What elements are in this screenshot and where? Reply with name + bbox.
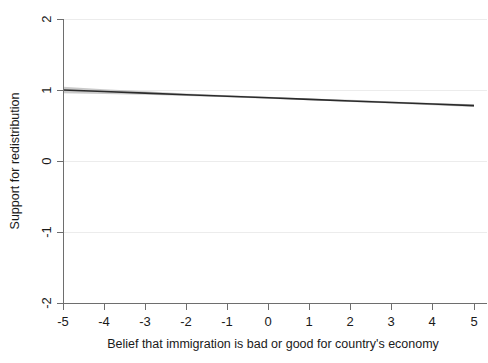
x-ticklabel-1: 1 bbox=[305, 314, 312, 329]
y-ticklabel-2: 2 bbox=[39, 15, 54, 22]
x-ticklabel-neg4: -4 bbox=[98, 314, 110, 329]
y-ticklabel-1: 1 bbox=[39, 86, 54, 93]
y-ticklabel-neg2: -2 bbox=[39, 297, 54, 309]
x-axis-title: Belief that immigration is bad or good f… bbox=[107, 337, 439, 351]
y-ticklabel-neg1: -1 bbox=[39, 226, 54, 238]
marginal-effects-plot: 2 1 0 -1 -2 Support for redistribution -… bbox=[0, 0, 488, 363]
x-ticklabel-neg2: -2 bbox=[180, 314, 192, 329]
chart-figure: 2 1 0 -1 -2 Support for redistribution -… bbox=[0, 0, 488, 363]
x-ticklabel-neg3: -3 bbox=[139, 314, 151, 329]
x-ticklabel-neg5: -5 bbox=[57, 314, 69, 329]
y-axis-title: Support for redistribution bbox=[8, 93, 22, 230]
plot-background bbox=[0, 0, 488, 363]
x-ticklabel-4: 4 bbox=[428, 314, 435, 329]
x-ticklabel-neg1: -1 bbox=[221, 314, 233, 329]
x-ticklabel-2: 2 bbox=[346, 314, 353, 329]
x-ticklabel-0: 0 bbox=[264, 314, 271, 329]
y-ticklabel-0: 0 bbox=[39, 157, 54, 164]
x-ticklabel-5: 5 bbox=[470, 314, 477, 329]
x-ticklabel-3: 3 bbox=[387, 314, 394, 329]
